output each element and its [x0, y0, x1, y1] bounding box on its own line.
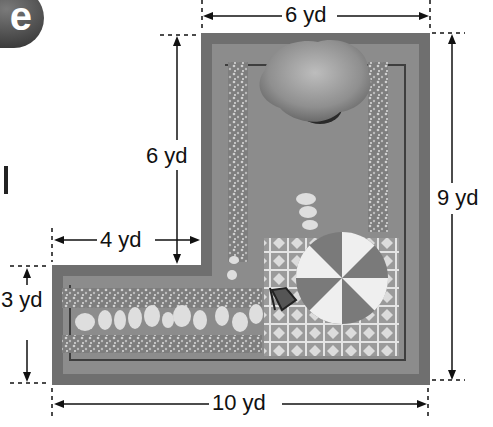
label-left-width: 4 yd [97, 228, 145, 252]
label-top-width: 6 yd [282, 3, 330, 27]
l-shaped-garden-diagram [0, 0, 493, 427]
patio-umbrella [296, 232, 388, 324]
garden-shape [52, 33, 430, 385]
label-right-height: 9 yd [434, 186, 482, 210]
label-inner-height: 6 yd [143, 144, 191, 168]
label-bottom-width: 10 yd [209, 391, 269, 415]
label-left-height: 3 yd [0, 288, 46, 312]
